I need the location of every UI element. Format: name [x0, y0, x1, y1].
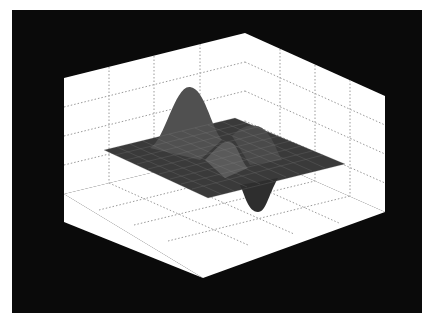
surface-plot-figure — [0, 0, 434, 326]
plot-canvas — [0, 0, 434, 326]
